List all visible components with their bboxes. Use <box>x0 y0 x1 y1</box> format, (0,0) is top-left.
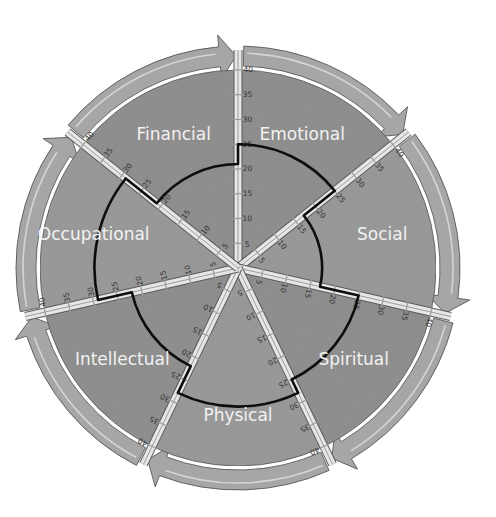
tick-label: 35 <box>243 90 253 99</box>
segment-label-financial: Financial <box>137 124 211 144</box>
segment-label-spiritual: Spiritual <box>318 349 389 369</box>
tick-label: 15 <box>243 189 253 198</box>
segment-label-emotional: Emotional <box>260 124 345 144</box>
segment-label-physical: Physical <box>203 405 272 425</box>
tick-label: 10 <box>243 214 253 223</box>
segment-label-intellectual: Intellectual <box>75 349 170 369</box>
wheel-svg: 5101520253035405101520253035405101520253… <box>0 0 496 517</box>
segment-label-social: Social <box>357 224 407 244</box>
tick-label: 20 <box>243 164 253 173</box>
tick-label: 30 <box>243 115 253 124</box>
tick-label: 40 <box>244 65 254 74</box>
segment-label-occupational: Occupational <box>38 224 150 244</box>
wellness-wheel-diagram: 5101520253035405101520253035405101520253… <box>0 0 496 517</box>
tick-label: 5 <box>245 240 250 249</box>
